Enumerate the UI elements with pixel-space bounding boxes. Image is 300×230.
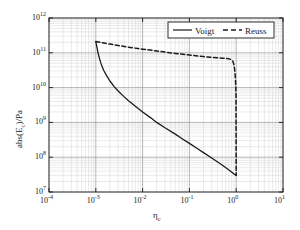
series-line-voigt xyxy=(96,42,236,176)
x-tick-label: 10-2 xyxy=(134,196,147,205)
x-tick-exponent: -4 xyxy=(48,194,53,200)
x-tick-label: 10-3 xyxy=(87,196,100,205)
x-tick-mantissa: 10 xyxy=(227,196,235,205)
x-tick-mantissa: 10 xyxy=(40,196,48,205)
y-axis-title: abs(Ec)/Pa xyxy=(14,110,24,148)
y-axis-title-post: )/Pa xyxy=(14,110,24,125)
x-axis-title-sub: c xyxy=(158,215,161,222)
legend-label-reuss: Reuss xyxy=(245,26,267,36)
y-tick-label: 1011 xyxy=(24,48,46,57)
y-tick-exponent: 7 xyxy=(43,185,46,191)
y-tick-mantissa: 10 xyxy=(35,152,43,161)
y-tick-mantissa: 10 xyxy=(35,187,43,196)
x-tick-exponent: -3 xyxy=(95,194,100,200)
y-tick-label: 1012 xyxy=(24,13,46,22)
y-tick-mantissa: 10 xyxy=(32,83,40,92)
x-tick-mantissa: 10 xyxy=(87,196,95,205)
major-gridlines xyxy=(49,18,283,192)
x-tick-exponent: 0 xyxy=(235,194,238,200)
x-tick-label: 10-1 xyxy=(180,196,193,205)
x-tick-exponent: -1 xyxy=(188,194,193,200)
chart-legend: Voigt Reuss xyxy=(168,22,274,38)
y-axis-title-pre: abs(E xyxy=(14,128,24,149)
x-tick-mantissa: 10 xyxy=(274,196,282,205)
axis-ticks xyxy=(49,18,283,192)
minor-gridlines xyxy=(49,18,283,192)
y-tick-exponent: 9 xyxy=(43,116,46,122)
chart-figure: Voigt Reuss 10-410-310-210-1100101 10710… xyxy=(0,0,300,230)
x-axis-title: ηc xyxy=(153,210,161,220)
series-line-reuss xyxy=(96,42,236,176)
plot-frame xyxy=(49,18,283,192)
x-tick-exponent: 1 xyxy=(282,194,285,200)
y-tick-exponent: 10 xyxy=(40,81,46,87)
y-tick-exponent: 8 xyxy=(43,151,46,157)
y-tick-exponent: 12 xyxy=(40,11,46,17)
y-tick-label: 108 xyxy=(24,152,46,161)
y-tick-label: 1010 xyxy=(24,83,46,92)
x-tick-mantissa: 10 xyxy=(134,196,142,205)
x-tick-label: 10-4 xyxy=(40,196,53,205)
legend-label-voigt: Voigt xyxy=(195,26,215,36)
x-tick-label: 100 xyxy=(227,196,238,205)
y-tick-mantissa: 10 xyxy=(35,117,43,126)
data-series xyxy=(96,42,236,176)
x-tick-label: 101 xyxy=(274,196,285,205)
y-tick-exponent: 11 xyxy=(40,46,46,52)
x-tick-exponent: -2 xyxy=(142,194,147,200)
y-tick-label: 107 xyxy=(24,187,46,196)
y-tick-label: 109 xyxy=(24,117,46,126)
y-tick-mantissa: 10 xyxy=(32,13,40,22)
y-axis-title-sub: c xyxy=(19,125,26,128)
